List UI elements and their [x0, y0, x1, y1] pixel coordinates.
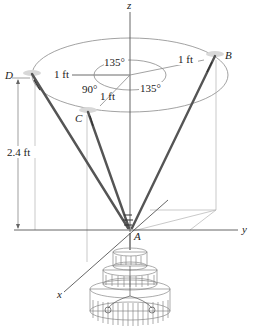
dim-1ft-b: 1 ft [178, 53, 193, 65]
dim-1ft-d: 1 ft [54, 68, 69, 80]
angle-90: 90° [82, 83, 97, 95]
point-d-label: D [4, 69, 13, 81]
cable-ac [88, 112, 129, 228]
dim-1ft-c: 1 ft [100, 90, 115, 102]
projection-guides [35, 60, 216, 262]
angle-135-bottom: 135° [140, 82, 161, 94]
chandelier-diagram: z y x 1 ft 1 ft 1 ft 135° 90° 135° 2.4 f… [0, 0, 253, 331]
dim-2.4ft: 2.4 ft [7, 146, 30, 158]
z-axis-label: z [126, 0, 132, 11]
point-b-label: B [225, 49, 232, 61]
point-a-label: A [133, 230, 141, 242]
angle-135-top: 135° [104, 56, 125, 68]
x-axis [64, 200, 168, 292]
turnbuckles [34, 62, 212, 225]
y-axis-label: y [241, 223, 247, 235]
chandelier [90, 233, 170, 326]
point-c-label: C [75, 112, 83, 124]
x-axis-label: x [56, 288, 62, 300]
